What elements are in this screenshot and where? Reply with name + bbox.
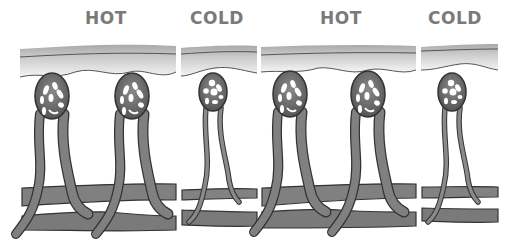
panel-cold-1 <box>181 46 257 227</box>
capillary-loop <box>428 73 478 222</box>
capillary-loop <box>96 73 168 234</box>
skin-layer <box>421 44 498 70</box>
skin-layer <box>261 45 416 72</box>
capillary-loop <box>254 71 326 232</box>
capillary-loop <box>16 73 88 234</box>
arteriole <box>422 187 498 198</box>
skin-layer <box>181 46 257 76</box>
panel-hot-2 <box>254 45 416 232</box>
capillary-diagram <box>0 0 517 240</box>
arteriole <box>182 189 257 200</box>
skin-layer <box>20 45 176 77</box>
panel-cold-2 <box>421 44 498 222</box>
capillary-loop <box>332 71 404 232</box>
panel-hot-1 <box>16 45 176 234</box>
